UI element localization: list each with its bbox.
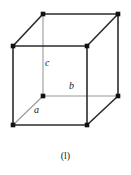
axis-label-c: c bbox=[45, 58, 49, 68]
vertex-front-top-right bbox=[85, 44, 90, 49]
edge-bottom-right-diagonal bbox=[87, 96, 118, 125]
figure-container: a b c (l) bbox=[0, 0, 131, 175]
vertex-front-bottom-right bbox=[85, 123, 90, 128]
axis-label-b: b bbox=[69, 81, 74, 91]
vertex-front-bottom-left bbox=[11, 123, 16, 128]
solid-edges-group bbox=[13, 14, 118, 125]
figure-caption: (l) bbox=[0, 150, 131, 161]
vertex-back-bottom-left bbox=[41, 94, 46, 99]
vertex-back-top-right bbox=[116, 12, 121, 17]
vertex-front-top-left bbox=[11, 44, 16, 49]
unit-cell-diagram bbox=[0, 0, 131, 150]
edge-top-left-diagonal bbox=[13, 14, 43, 46]
vertex-back-bottom-right bbox=[116, 94, 121, 99]
edge-top-right-diagonal bbox=[87, 14, 118, 46]
axis-label-a: a bbox=[34, 105, 39, 115]
vertex-back-top-left bbox=[41, 12, 46, 17]
